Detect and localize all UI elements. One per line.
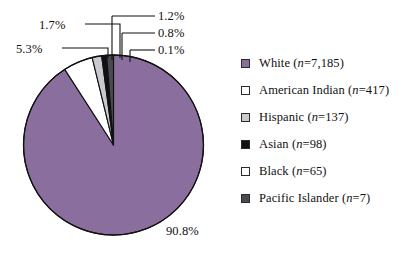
legend-swatch-hispanic	[241, 113, 250, 122]
legend-swatch-black	[241, 167, 250, 176]
pct-label-hispanic: 1.7%	[39, 18, 65, 33]
pct-label-american-indian: 5.3%	[16, 42, 42, 57]
pct-label-asian: 0.8%	[158, 26, 184, 41]
legend-item-hispanic[interactable]: Hispanic (n=137)	[241, 104, 413, 131]
legend-item-asian[interactable]: Asian (n=98)	[241, 131, 413, 158]
legend-item-pacific-islander[interactable]: Pacific Islander (n=7)	[241, 185, 413, 212]
legend-item-american-indian[interactable]: American Indian (n=417)	[241, 77, 413, 104]
legend-label: Pacific Islander (n=7)	[259, 191, 370, 206]
legend-swatch-white	[241, 59, 250, 68]
pct-label-black: 0.1%	[158, 43, 184, 58]
legend-label: Black (n=65)	[259, 164, 327, 179]
pie-chart-figure: 5.3% 1.7% 1.2% 0.8% 0.1% 90.8% White (n=…	[0, 0, 414, 253]
legend-item-white[interactable]: White (n=7,185)	[241, 50, 413, 77]
pie-slice-group	[23, 55, 203, 235]
pct-label-white: 90.8%	[166, 224, 199, 239]
legend-label: Hispanic (n=137)	[259, 110, 349, 125]
pct-label-pacific-islander: 1.2%	[158, 9, 184, 24]
legend-label: White (n=7,185)	[259, 56, 344, 71]
leader-line-group	[62, 16, 155, 62]
legend-swatch-pacific-islander	[241, 194, 250, 203]
chart-legend: White (n=7,185)American Indian (n=417)Hi…	[241, 50, 413, 212]
legend-item-black[interactable]: Black (n=65)	[241, 158, 413, 185]
legend-label: American Indian (n=417)	[259, 83, 389, 98]
legend-swatch-american-indian	[241, 86, 250, 95]
leader-line-hispanic	[85, 24, 120, 58]
legend-label: Asian (n=98)	[259, 137, 327, 152]
legend-swatch-asian	[241, 140, 250, 149]
